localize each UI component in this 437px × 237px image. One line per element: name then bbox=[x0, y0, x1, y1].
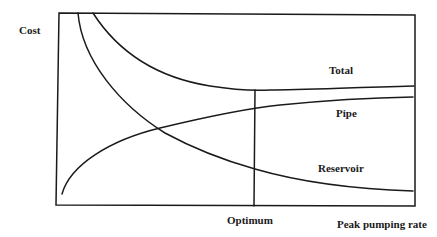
y-axis-label: Cost bbox=[19, 24, 41, 36]
reservoir-label: Reservoir bbox=[318, 162, 364, 174]
x-axis-label: Peak pumping rate bbox=[337, 218, 427, 230]
pipe-label: Pipe bbox=[336, 107, 357, 119]
optimum-label: Optimum bbox=[227, 214, 273, 226]
total-curve bbox=[93, 13, 414, 90]
optimum-line bbox=[254, 90, 255, 206]
pipe-curve bbox=[62, 97, 413, 194]
total-label: Total bbox=[329, 64, 353, 76]
plot-frame bbox=[56, 13, 415, 206]
cost-optimum-diagram: Cost Total Pipe Reservoir Optimum Peak p… bbox=[0, 0, 437, 237]
